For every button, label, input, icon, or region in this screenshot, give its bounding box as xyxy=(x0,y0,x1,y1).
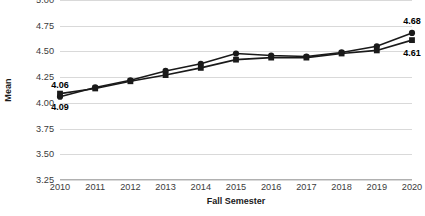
data-point-marker xyxy=(304,55,310,61)
data-point-label: 4.09 xyxy=(51,102,69,112)
x-axis-tick-label: 2020 xyxy=(402,182,422,192)
data-point-marker xyxy=(339,51,345,57)
plot-area: 4.064.684.094.61 xyxy=(60,0,412,180)
data-point-marker xyxy=(57,91,63,97)
x-axis-tick-label: 2013 xyxy=(155,182,175,192)
series-layer xyxy=(60,0,412,180)
x-axis-tick-label: 2019 xyxy=(367,182,387,192)
data-point-marker xyxy=(163,72,169,78)
line-chart: Mean 3.253.503.754.004.254.504.755.00 4.… xyxy=(0,0,425,216)
data-point-label: 4.61 xyxy=(403,48,421,58)
data-point-marker xyxy=(409,30,415,36)
y-axis-tick-label: 3.50 xyxy=(36,149,54,159)
y-axis-title: Mean xyxy=(3,78,13,101)
y-axis-tick-label: 4.50 xyxy=(36,46,54,56)
x-axis-tick-label: 2016 xyxy=(261,182,281,192)
x-axis-title: Fall Semester xyxy=(60,196,412,206)
data-point-marker xyxy=(374,48,380,54)
y-axis-tick-label: 4.75 xyxy=(36,21,54,31)
x-axis-tick-label: 2015 xyxy=(226,182,246,192)
data-point-marker xyxy=(233,57,239,63)
x-axis-tick-label: 2012 xyxy=(120,182,140,192)
x-axis-tick-label: 2017 xyxy=(296,182,316,192)
data-point-label: 4.68 xyxy=(403,16,421,26)
x-axis-tick-label: 2014 xyxy=(191,182,211,192)
data-point-marker xyxy=(268,55,274,61)
data-point-marker xyxy=(233,50,239,56)
y-axis-tick-labels: 3.253.503.754.004.254.504.755.00 xyxy=(14,0,58,180)
x-axis-tick-label: 2011 xyxy=(85,182,105,192)
series-line xyxy=(60,40,412,93)
data-point-label: 4.06 xyxy=(51,80,69,90)
series-line xyxy=(60,33,412,97)
x-axis-tick-label: 2018 xyxy=(331,182,351,192)
data-point-marker xyxy=(198,65,204,71)
data-point-marker xyxy=(128,78,134,84)
x-axis-tick-label: 2010 xyxy=(50,182,70,192)
y-axis-tick-label: 5.00 xyxy=(36,0,54,5)
data-point-marker xyxy=(92,86,98,92)
x-axis-tick-labels: 2010201120122013201420152016201720182019… xyxy=(60,180,412,196)
data-point-marker xyxy=(409,37,415,43)
y-axis-tick-label: 3.75 xyxy=(36,124,54,134)
